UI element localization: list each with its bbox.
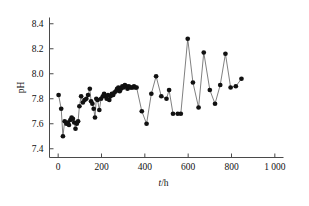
axes: [50, 18, 284, 158]
data-point: [76, 119, 81, 124]
x-tick-label-600: 600: [181, 162, 196, 172]
data-point: [86, 93, 91, 98]
y-axis-title: pH: [16, 82, 26, 94]
data-point: [90, 101, 95, 106]
data-point: [213, 101, 218, 106]
y-tick-label-8.2: 8.2: [32, 44, 44, 54]
y-axis-tick-labels: 7.47.67.88.08.28.4: [32, 19, 44, 154]
x-tick-label-0: 0: [56, 162, 61, 172]
data-point: [144, 121, 149, 126]
data-point: [77, 104, 82, 109]
data-point: [164, 96, 169, 101]
data-point: [159, 94, 164, 99]
data-point: [87, 86, 92, 91]
data-point: [93, 115, 98, 120]
series-line-ph: [59, 39, 242, 137]
chart-plot-area: 02004006008001 000 7.47.67.88.08.28.4 t/…: [0, 0, 309, 206]
data-point: [207, 88, 212, 93]
data-point: [218, 83, 223, 88]
chart-figure: 02004006008001 000 7.47.67.88.08.28.4 t/…: [0, 0, 309, 206]
data-line: [59, 39, 242, 137]
data-point: [67, 123, 72, 128]
data-point: [228, 85, 233, 90]
data-points: [56, 36, 244, 138]
y-tick-label-8.0: 8.0: [32, 69, 44, 79]
data-point: [91, 106, 96, 111]
x-tick-label-200: 200: [94, 162, 109, 172]
data-point: [97, 108, 102, 113]
data-point: [73, 126, 78, 131]
data-point: [223, 51, 228, 56]
data-point: [149, 91, 154, 96]
y-tick-label-8.4: 8.4: [32, 19, 44, 29]
y-tick-label-7.4: 7.4: [32, 144, 44, 154]
data-point: [233, 84, 238, 89]
data-point: [196, 105, 201, 110]
data-point: [56, 93, 61, 98]
data-point: [201, 50, 206, 55]
x-axis-ticks: [58, 154, 275, 158]
y-tick-label-7.8: 7.8: [32, 94, 44, 104]
y-tick-label-7.6: 7.6: [32, 119, 44, 129]
data-point: [139, 109, 144, 114]
x-tick-label-1000: 1 000: [264, 162, 286, 172]
data-point: [134, 85, 139, 90]
data-point: [167, 88, 172, 93]
data-point: [239, 76, 244, 81]
x-tick-label-400: 400: [138, 162, 153, 172]
data-point: [171, 111, 176, 116]
x-axis-title: t/h: [158, 178, 168, 188]
data-point: [185, 36, 190, 41]
y-axis-ticks: [50, 24, 54, 149]
data-point: [59, 106, 64, 111]
data-point: [79, 94, 84, 99]
x-axis-tick-labels: 02004006008001 000: [56, 162, 286, 172]
data-point: [191, 80, 196, 85]
data-point: [154, 74, 159, 79]
x-tick-label-800: 800: [224, 162, 239, 172]
x-axis-title-unit: /h: [161, 178, 169, 188]
data-point: [178, 111, 183, 116]
data-point: [61, 134, 66, 139]
